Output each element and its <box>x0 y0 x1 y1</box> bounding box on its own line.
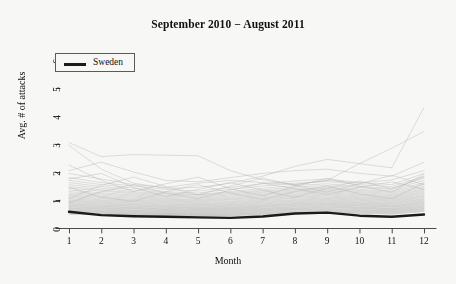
chart-title: September 2010 − August 2011 <box>0 18 456 30</box>
legend-label-sweden: Sweden <box>93 57 123 67</box>
x-tick-10: 10 <box>349 236 369 246</box>
x-tick-7: 7 <box>253 236 273 246</box>
legend-line-sweden <box>64 63 86 66</box>
x-tick-6: 6 <box>220 236 240 246</box>
x-tick-12: 12 <box>414 236 434 246</box>
y-axis-label: Avg. # of attacks <box>16 41 27 171</box>
y-tick-4: 4 <box>52 115 62 137</box>
x-tick-5: 5 <box>188 236 208 246</box>
x-tick-2: 2 <box>91 236 111 246</box>
y-tick-1: 1 <box>52 199 62 221</box>
x-tick-8: 8 <box>285 236 305 246</box>
x-tick-1: 1 <box>59 236 79 246</box>
x-tick-4: 4 <box>156 236 176 246</box>
legend: Sweden <box>55 53 135 72</box>
x-tick-9: 9 <box>317 236 337 246</box>
y-tick-2: 2 <box>52 171 62 193</box>
y-tick-5: 5 <box>52 87 62 109</box>
x-tick-11: 11 <box>382 236 402 246</box>
x-axis-label: Month <box>0 255 456 266</box>
x-tick-3: 3 <box>124 236 144 246</box>
y-tick-3: 3 <box>52 143 62 165</box>
